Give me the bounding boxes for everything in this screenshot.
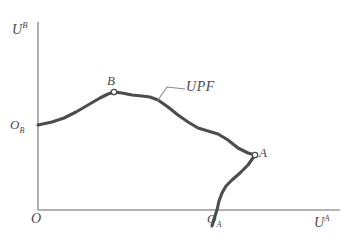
point-b-marker xyxy=(111,89,116,94)
origin-a-label: OA xyxy=(207,212,222,229)
point-a-marker xyxy=(252,152,257,157)
y-axis-label: UB xyxy=(12,21,28,37)
upf-leader-line xyxy=(158,87,185,100)
x-axis-label: UA xyxy=(314,214,330,230)
upf-curve xyxy=(38,92,255,226)
diagram-canvas xyxy=(0,0,353,244)
origin-b-label: OB xyxy=(10,118,25,135)
origin-label: O xyxy=(31,212,41,226)
point-a-label: A xyxy=(259,146,267,159)
upf-label: UPF xyxy=(186,80,215,94)
point-b-label: B xyxy=(107,74,115,87)
upf-figure: UB UA O OB OA B A UPF xyxy=(0,0,353,244)
